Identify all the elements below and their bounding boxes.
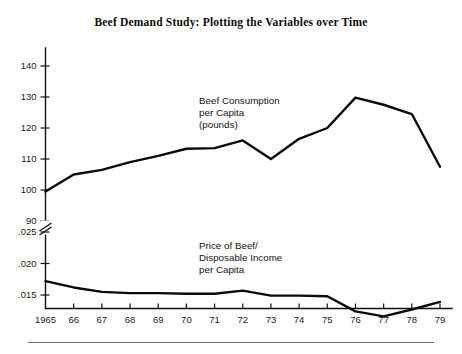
- series-label: Disposable Income: [199, 252, 283, 263]
- figure-container: Beef Demand Study: Plotting the Variable…: [0, 0, 462, 354]
- x-tick-label: 76: [350, 314, 361, 325]
- y-tick-label: 140: [21, 60, 37, 71]
- series-label: per Capita: [199, 264, 245, 275]
- y-tick-label: 110: [21, 153, 36, 164]
- y-tick-label: .020: [18, 258, 37, 269]
- x-tick-label: 74: [294, 314, 305, 325]
- x-tick-label: 78: [407, 314, 418, 325]
- y-tick-label: .025: [18, 226, 37, 237]
- x-tick-label: 75: [322, 314, 333, 325]
- x-tick-label: 66: [68, 314, 79, 325]
- x-tick-label: 68: [125, 314, 136, 325]
- x-tick-label: 70: [181, 314, 192, 325]
- series-label: (pounds): [199, 119, 238, 130]
- x-tick-label: 67: [97, 314, 108, 325]
- x-tick-label: 79: [435, 314, 446, 325]
- data-series: [46, 98, 441, 317]
- x-tick-label: 71: [209, 314, 220, 325]
- footer-rule: [28, 342, 434, 343]
- series-annotations: Beef Consumptionper Capita(pounds)Price …: [199, 95, 283, 275]
- y-tick-label: 100: [21, 184, 37, 195]
- y-tick-label: 130: [21, 91, 37, 102]
- y-tick-label: .015: [18, 289, 37, 300]
- x-tick-label: 72: [237, 314, 248, 325]
- series-line: [46, 281, 441, 316]
- beef-demand-chart: 10011012013014090.025.020.015 1965666768…: [0, 0, 462, 354]
- y-tick-label-90: 90: [26, 215, 37, 226]
- x-tick-label: 1965: [35, 314, 56, 325]
- y-tick-label: 120: [21, 122, 37, 133]
- series-label: Beef Consumption: [199, 95, 280, 106]
- series-label: Price of Beef/: [199, 240, 258, 251]
- y-axis: 10011012013014090.025.020.015: [18, 48, 52, 309]
- x-tick-label: 69: [153, 314, 164, 325]
- x-tick-label: 73: [266, 314, 277, 325]
- page-title: Beef Demand Study: Plotting the Variable…: [0, 16, 462, 28]
- series-label: per Capita: [199, 107, 245, 118]
